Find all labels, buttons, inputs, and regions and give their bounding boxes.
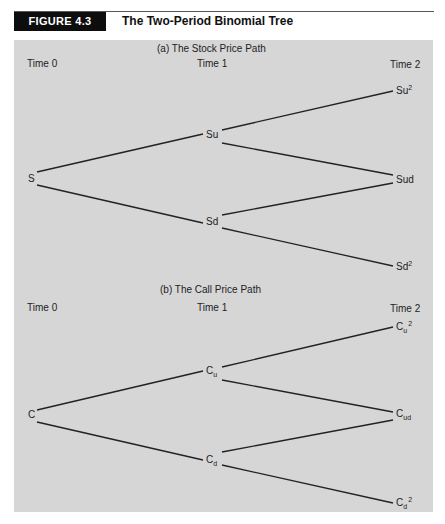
node-a-up: Su <box>206 129 218 141</box>
node-label: C <box>28 409 35 420</box>
node-b-updown: Cud <box>396 408 411 424</box>
tree-edges <box>0 0 445 524</box>
node-label: Sd <box>396 261 408 272</box>
node-label: Su <box>206 129 218 140</box>
edge-b-down-downdown <box>222 465 393 503</box>
node-label: Su <box>396 85 408 96</box>
node-a-upup: Su2 <box>396 82 412 97</box>
edge-b-up-updown <box>222 380 393 412</box>
node-subscript: ud <box>403 414 411 421</box>
panel-a-title: (a) The Stock Price Path <box>157 43 266 54</box>
node-b-root: C <box>28 409 35 421</box>
node-subscript: u <box>403 327 407 334</box>
panel-a-time-1: Time 1 <box>197 58 227 69</box>
edge-a-down-updown <box>222 183 393 215</box>
node-a-down: Sd <box>206 216 218 228</box>
panel-b-time-1: Time 1 <box>197 302 227 313</box>
node-a-updown: Sud <box>396 174 414 186</box>
panel-b-time-0: Time 0 <box>27 302 57 313</box>
node-b-down: Cd <box>206 454 217 470</box>
panel-b-title: (b) The Call Price Path <box>160 284 261 295</box>
node-label: S <box>28 173 35 184</box>
node-b-up: Cu <box>206 365 217 381</box>
node-superscript: 2 <box>408 84 412 91</box>
edge-b-down-updown <box>222 420 393 452</box>
edge-a-up-upup <box>222 91 393 130</box>
node-b-downdown: Cd2 <box>396 494 412 513</box>
node-subscript: d <box>213 460 217 467</box>
edge-a-down-downdown <box>222 228 393 266</box>
edge-b-root-down <box>37 422 203 460</box>
edge-a-root-down <box>37 185 203 223</box>
edge-b-root-up <box>37 371 203 410</box>
panel-a-time-0: Time 0 <box>27 58 57 69</box>
panel-a-time-2: Time 2 <box>390 59 420 70</box>
node-subscript: u <box>213 371 217 378</box>
node-superscript: 2 <box>408 496 412 503</box>
panel-b-time-2: Time 2 <box>390 303 420 314</box>
node-a-root: S <box>28 173 35 185</box>
node-a-downdown: Sd2 <box>396 258 412 273</box>
node-subscript: d <box>403 503 407 510</box>
edge-b-up-upup <box>222 327 393 367</box>
node-superscript: 2 <box>408 320 412 327</box>
node-b-upup: Cu2 <box>396 318 412 337</box>
edge-a-root-up <box>37 134 203 172</box>
node-superscript: 2 <box>408 260 412 267</box>
node-label: Sd <box>206 216 218 227</box>
node-label: Sud <box>396 174 414 185</box>
edge-a-up-updown <box>222 143 393 175</box>
